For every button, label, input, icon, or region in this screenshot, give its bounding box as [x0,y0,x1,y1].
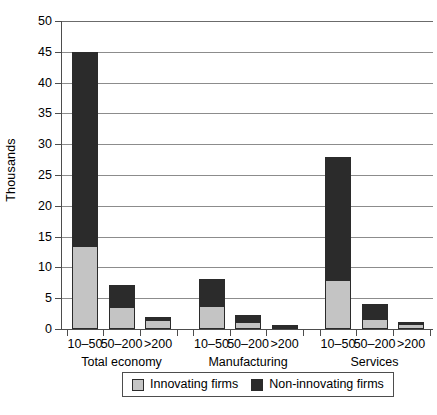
legend-item-1: Innovating firms [132,378,238,391]
y-axis-tick-label: 10 [22,261,52,274]
x-axis-tick-11 [393,330,394,336]
y-axis-tick-5 [55,298,61,299]
x-axis-category-label: >200 [397,337,425,351]
y-axis-tick-20 [55,206,61,207]
y-axis-tick-30 [55,144,61,145]
y-axis-tick-25 [55,175,61,176]
legend-swatch-icon [251,379,263,391]
x-axis-tick-10 [356,330,357,336]
x-axis-category-label: 10–50 [194,337,229,351]
bar-segment-non-innovating [325,157,351,280]
x-axis-category-label: >200 [144,337,172,351]
bar-3 [145,21,171,329]
bar-segment-non-innovating [199,279,225,306]
bar-segment-innovating [109,307,135,329]
bar-4 [199,21,225,329]
x-axis-category-label: 10–50 [321,337,356,351]
bar-segment-innovating [199,306,225,329]
x-axis-category-label: >200 [270,337,298,351]
y-axis-tick-label: 45 [22,46,52,59]
bar-5 [235,21,261,329]
bar-segment-non-innovating [362,304,388,319]
chart-legend: Innovating firmsNon-innovating firms [122,372,394,397]
bar-6 [272,21,298,329]
x-axis-tick-4 [177,330,178,336]
x-axis-group-label: Services [351,355,399,369]
stacked-bar-chart: Thousands 05101520253035404550 10–5050–2… [0,0,437,415]
y-axis-tick-0 [55,329,61,330]
x-axis-tick-8 [303,330,304,336]
y-axis-tick-45 [55,52,61,53]
y-axis-tick-50 [55,21,61,22]
x-axis-tick-7 [266,330,267,336]
legend-label: Non-innovating firms [269,378,384,391]
bar-segment-innovating [72,246,98,329]
bar-segment-innovating [235,322,261,329]
y-axis-tick-label: 15 [22,230,52,243]
x-axis-group-label: Manufacturing [208,355,287,369]
legend-item-2: Non-innovating firms [251,378,384,391]
x-axis-tick-3 [140,330,141,336]
x-axis-category-label: 50–200 [227,337,269,351]
y-axis-tick-label: 40 [22,76,52,89]
y-axis-tick-label: 20 [22,200,52,213]
bar-segment-non-innovating [109,285,135,308]
x-axis-tick-2 [103,330,104,336]
bar-segment-non-innovating [145,317,171,321]
x-axis-group-label: Total economy [81,355,162,369]
x-axis-tick-5 [193,330,194,336]
x-axis-tick-12 [430,330,431,336]
y-axis-title: Thousands [0,0,22,340]
x-axis-category-label: 50–200 [101,337,143,351]
bar-2 [109,21,135,329]
y-axis-title-label: Thousands [4,138,18,202]
bar-segment-non-innovating [72,52,98,246]
y-axis-tick-35 [55,113,61,114]
bar-segment-non-innovating [398,322,424,324]
y-axis-tick-label: 30 [22,138,52,151]
y-axis-tick-10 [55,267,61,268]
y-axis-tick-label: 50 [22,15,52,28]
legend-swatch-icon [132,379,144,391]
y-axis-tick-15 [55,237,61,238]
bar-segment-innovating [362,319,388,329]
bar-1 [72,21,98,329]
x-axis-tick-6 [230,330,231,336]
y-axis-tick-label: 35 [22,107,52,120]
y-axis-tick-40 [55,83,61,84]
bar-segment-innovating [145,320,171,329]
bar-8 [362,21,388,329]
bar-segment-non-innovating [272,325,298,327]
bar-segment-innovating [398,324,424,329]
bar-9 [398,21,424,329]
y-axis-tick-label: 5 [22,292,52,305]
bar-segment-non-innovating [235,315,261,321]
legend-label: Innovating firms [150,378,238,391]
bar-segment-innovating [272,327,298,329]
x-axis-tick-1 [67,330,68,336]
bar-7 [325,21,351,329]
x-axis-category-label: 10–50 [68,337,103,351]
x-axis-category-label: 50–200 [354,337,396,351]
bar-segment-innovating [325,280,351,329]
x-axis-tick-9 [320,330,321,336]
y-axis-tick-label: 25 [22,169,52,182]
y-axis-tick-label: 0 [22,323,52,336]
